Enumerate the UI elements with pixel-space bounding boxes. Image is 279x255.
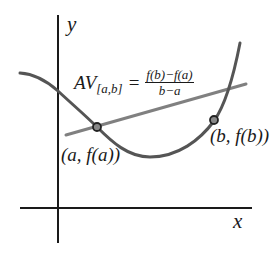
formula-denominator: b−a: [159, 83, 181, 97]
x-axis-label: x: [233, 211, 242, 232]
formula-lhs: AV: [74, 73, 96, 92]
formula-numerator: f(b)−f(a): [145, 68, 193, 83]
point-b-marker: [210, 116, 218, 124]
point-b-label: (b, f(b)): [210, 126, 269, 145]
formula-equals: =: [129, 73, 140, 92]
point-a-label: (a, f(a)): [61, 145, 120, 164]
y-axis-label: y: [67, 14, 76, 35]
formula-fraction: f(b)−f(a) b−a: [145, 68, 193, 97]
average-value-diagram: y x AV[a,b]= f(b)−f(a) b−a (a, f(a)) (b,…: [0, 0, 279, 255]
point-a-marker: [93, 123, 101, 131]
formula-subscript: [a,b]: [96, 82, 122, 95]
average-value-formula: AV[a,b]= f(b)−f(a) b−a: [74, 68, 194, 97]
function-curve: [20, 43, 240, 157]
